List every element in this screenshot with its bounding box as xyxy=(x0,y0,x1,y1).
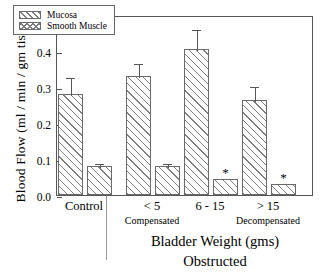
y-axis-tick-mark xyxy=(57,197,62,198)
bar xyxy=(242,100,267,195)
significance-marker: * xyxy=(222,166,229,179)
bar xyxy=(155,166,180,195)
error-bar xyxy=(139,64,140,78)
x-axis-title: Bladder Weight (gms) xyxy=(106,233,324,250)
y-axis-tick-label: 0.4 xyxy=(11,47,57,59)
x-axis-category-label: 6 - 15 xyxy=(195,199,224,214)
error-bar xyxy=(255,87,256,101)
error-bar-cap xyxy=(163,164,172,165)
legend-swatch-cross-hatch-icon xyxy=(19,22,41,30)
y-axis-tick-label: 0.1 xyxy=(11,155,57,167)
x-axis-category-label: < 5 xyxy=(144,199,160,214)
y-axis-tick-label: 0.2 xyxy=(11,119,57,131)
group-divider xyxy=(106,196,107,260)
legend-item-mucosa: Mucosa xyxy=(19,9,107,20)
significance-marker: * xyxy=(280,171,287,184)
bar xyxy=(271,184,296,195)
y-axis-tick-mark xyxy=(57,89,62,90)
legend: Mucosa Smooth Muscle xyxy=(13,5,115,35)
error-bar-cap xyxy=(134,64,143,65)
y-axis-tick-label: 0.0 xyxy=(11,191,57,203)
x-axis-subtitle: Obstructed xyxy=(106,253,324,270)
error-bar xyxy=(197,30,198,52)
bar xyxy=(126,76,151,195)
y-axis-tick-mark xyxy=(57,53,62,54)
error-bar-cap xyxy=(95,164,104,165)
plot-area: 0.00.10.20.30.40.5 ** xyxy=(56,16,313,196)
legend-swatch-diagonal-hatch-icon xyxy=(19,11,41,19)
error-bar-cap xyxy=(66,78,75,79)
bar xyxy=(58,94,83,195)
figure: Blood Flow (ml / min / gm tissue) 0.00.1… xyxy=(0,0,324,277)
legend-label: Smooth Muscle xyxy=(47,21,107,31)
y-axis-tick-label: 0.3 xyxy=(11,83,57,95)
x-axis-category-label: > 15 xyxy=(257,199,280,214)
bar xyxy=(213,179,238,195)
bar xyxy=(184,49,209,195)
x-axis-category-label: Control xyxy=(65,199,103,214)
legend-label: Mucosa xyxy=(47,10,77,20)
x-axis-category-sublabel: Decompensated xyxy=(236,215,300,226)
error-bar xyxy=(71,78,72,96)
y-axis-title: Blood Flow (ml / min / gm tissue) xyxy=(13,7,29,207)
bar xyxy=(87,166,112,195)
error-bar-cap xyxy=(192,30,201,31)
error-bar-cap xyxy=(250,87,259,88)
x-axis-category-sublabel: Compensated xyxy=(125,215,179,226)
legend-item-smooth-muscle: Smooth Muscle xyxy=(19,20,107,31)
